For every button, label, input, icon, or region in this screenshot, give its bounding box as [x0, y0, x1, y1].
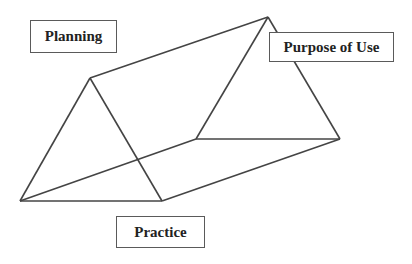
front-right-edge: [90, 78, 162, 201]
practice-label: Practice: [116, 216, 205, 248]
purpose-of-use-label: Purpose of Use: [269, 32, 394, 62]
bottom-left-edge: [20, 139, 196, 201]
back-left-edge: [196, 17, 268, 139]
planning-label: Planning: [30, 20, 117, 53]
bottom-right-edge: [162, 139, 340, 201]
diagram-canvas: Planning Purpose of Use Practice: [0, 0, 412, 264]
front-left-edge: [20, 78, 90, 201]
